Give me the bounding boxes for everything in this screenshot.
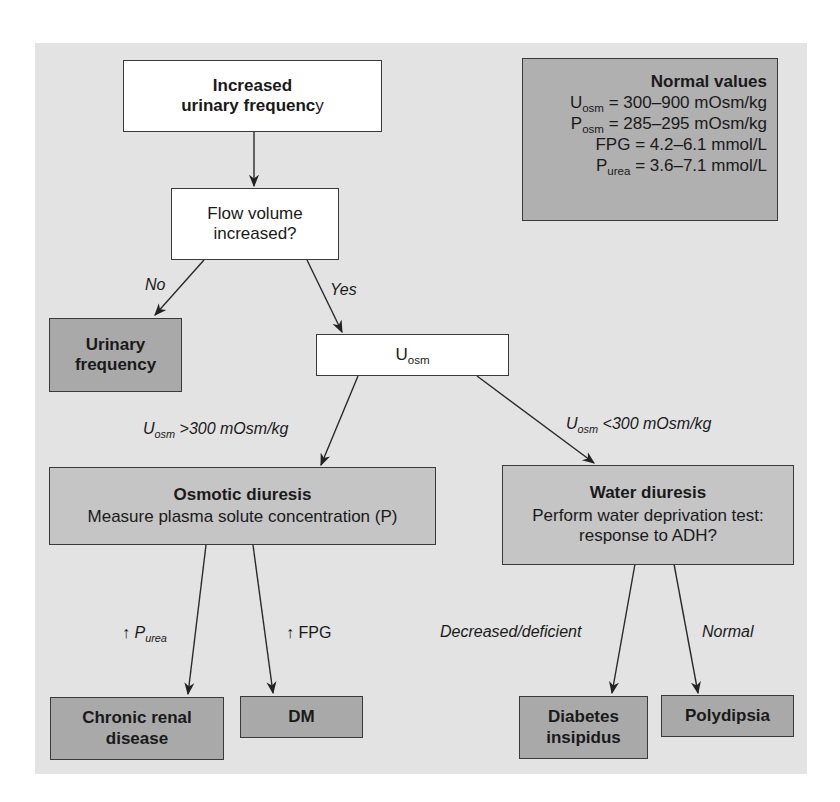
node-increased-urinary-frequency: Increased urinary frequency: [123, 60, 382, 132]
edge-label-uosm-low: Uosm <300 mOsm/kg: [566, 415, 711, 433]
normal-value-purea: Purea = 3.6–7.1 mmol/L: [523, 155, 767, 176]
node-urinary-frequency: Urinary frequency: [49, 318, 182, 392]
node-chronic-renal-disease: Chronic renal disease: [50, 697, 224, 760]
node-water-diuresis: Water diuresis Perform water deprivation…: [502, 465, 794, 565]
node-flow-volume-increased: Flow volume increased?: [171, 188, 339, 260]
edge-label-purea: ↑ Purea: [122, 624, 167, 642]
normal-value-fpg: FPG = 4.2–6.1 mmol/L: [523, 134, 767, 155]
normal-values-title: Normal values: [523, 71, 767, 92]
node-polydipsia: Polydipsia: [661, 695, 794, 737]
node-dm: DM: [240, 696, 363, 738]
osmotic-diuresis-title: Osmotic diuresis: [174, 485, 312, 505]
node-uosm: Uosm: [316, 334, 509, 376]
node-osmotic-diuresis: Osmotic diuresis Measure plasma solute c…: [49, 467, 436, 545]
edge-label-decreased: Decreased/deficient: [440, 623, 581, 641]
normal-value-posm: Posm = 285–295 mOsm/kg: [523, 113, 767, 134]
water-diuresis-title: Water diuresis: [590, 483, 707, 503]
node-diabetes-insipidus: Diabetes insipidus: [519, 696, 648, 759]
edge-label-uosm-high: Uosm >300 mOsm/kg: [143, 420, 288, 438]
edge-label-yes: Yes: [330, 281, 357, 299]
edge-label-fpg: ↑ FPG: [286, 624, 331, 642]
normal-values-box: Normal values Uosm = 300–900 mOsm/kg Pos…: [522, 58, 778, 221]
edge-label-normal: Normal: [702, 623, 754, 641]
normal-value-uosm: Uosm = 300–900 mOsm/kg: [523, 92, 767, 113]
edge-label-no: No: [145, 276, 165, 294]
